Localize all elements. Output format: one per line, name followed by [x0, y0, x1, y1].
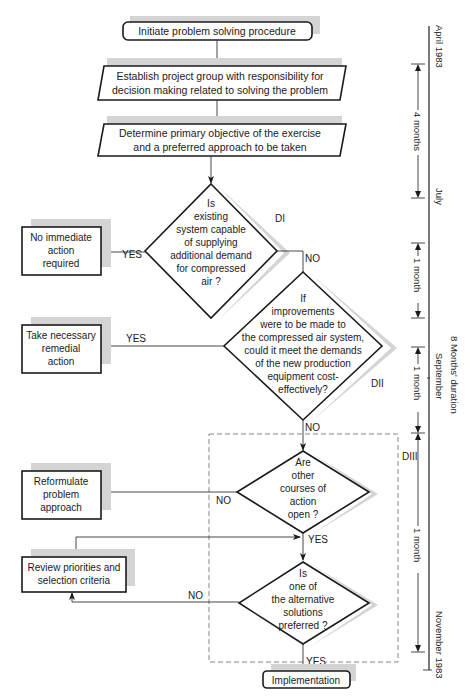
svg-text:Are: Are: [295, 457, 311, 468]
svg-text:If: If: [300, 293, 306, 304]
svg-text:required: required: [43, 258, 80, 269]
svg-text:one of: one of: [289, 581, 317, 592]
no-label-di: NO: [305, 253, 320, 264]
svg-text:No immediate: No immediate: [30, 232, 92, 243]
date-november-1983: November 1983: [434, 611, 445, 679]
svg-text:action: action: [290, 496, 317, 507]
svg-text:system capable: system capable: [176, 224, 246, 235]
svg-text:problem: problem: [43, 489, 79, 500]
svg-text:other: other: [292, 470, 315, 481]
svg-text:for compressed: for compressed: [177, 263, 246, 274]
svg-text:Is: Is: [299, 568, 307, 579]
svg-text:Is: Is: [207, 198, 215, 209]
date-september: September: [434, 353, 445, 399]
svg-text:Review priorities and: Review priorities and: [28, 562, 121, 573]
interval-4-months: 4 months: [412, 112, 423, 151]
svg-text:the alternative: the alternative: [272, 594, 335, 605]
yes-label-di: YES: [122, 249, 142, 260]
yes-label-diii: YES: [308, 534, 328, 545]
svg-text:action: action: [48, 356, 75, 367]
date-july: July: [434, 188, 445, 205]
svg-text:preferred ?: preferred ?: [279, 620, 328, 631]
svg-text:air ?: air ?: [201, 276, 221, 287]
step-establish-project-group: Establish project group with responsibil…: [98, 58, 346, 100]
svg-text:action: action: [48, 245, 75, 256]
svg-text:were to be made to: were to be made to: [259, 319, 346, 330]
step2-line1: Determine primary objective of the exerc…: [119, 127, 321, 139]
decision-dii: If improvements were to be made to the c…: [224, 272, 397, 422]
end-terminal-implementation: Implementation: [263, 664, 356, 688]
outcome-reformulate-approach: Reformulate problem approach: [22, 463, 111, 519]
svg-text:effectively?: effectively?: [278, 384, 328, 395]
step2-line2: and a preferred approach to be taken: [133, 141, 307, 153]
connector-no-di: [277, 251, 303, 272]
flowchart-diagram: Initiate problem solving procedure Estab…: [0, 0, 475, 700]
decision-diii: Are other courses of action open ?: [237, 451, 378, 535]
svg-text:of the new production: of the new production: [255, 358, 351, 369]
arrow-no-decision4: [72, 593, 239, 602]
outcome-remedial-action: Take necessary remedial action: [22, 317, 111, 373]
no-label-diii: NO: [216, 495, 231, 506]
interval-1-month-b: 1 month: [412, 366, 423, 400]
step-determine-objective: Determine primary objective of the exerc…: [98, 116, 346, 156]
svg-text:could it meet the demands: could it meet the demands: [244, 345, 361, 356]
decision-id-di: DI: [275, 213, 285, 224]
svg-text:solutions: solutions: [283, 607, 322, 618]
interval-1-month-c: 1 month: [412, 528, 423, 562]
outcome-no-immediate-action: No immediate action required: [22, 219, 111, 275]
no-label-dii: NO: [305, 422, 320, 433]
svg-text:equipment cost-: equipment cost-: [267, 371, 338, 382]
svg-text:Take necessary: Take necessary: [26, 330, 95, 341]
decision-id-diii: DIII: [402, 451, 418, 462]
timeline: 4 months 1 month 1 month 1 month April 1…: [411, 25, 460, 679]
decision-di: Is existing system capable of supplying …: [145, 184, 290, 320]
svg-text:open ?: open ?: [288, 509, 319, 520]
start-terminal: Initiate problem solving procedure: [123, 16, 320, 40]
no-label-decision4: NO: [188, 590, 203, 601]
yes-label-dii: YES: [126, 333, 146, 344]
step1-line2: decision making related to solving the p…: [112, 84, 328, 96]
start-label: Initiate problem solving procedure: [138, 25, 296, 37]
svg-text:existing: existing: [194, 211, 228, 222]
svg-text:additional demand: additional demand: [170, 250, 252, 261]
decision-id-dii: DII: [371, 378, 384, 389]
total-duration: 8 Months' duration: [449, 336, 460, 414]
svg-text:remedial: remedial: [42, 343, 80, 354]
svg-text:approach: approach: [40, 502, 82, 513]
outcome-review-priorities: Review priorities and selection criteria: [22, 549, 135, 592]
svg-text:the compressed air system,: the compressed air system,: [242, 332, 364, 343]
svg-text:courses of: courses of: [280, 483, 326, 494]
svg-text:of supplying: of supplying: [184, 237, 237, 248]
date-april-1983: April 1983: [434, 25, 445, 68]
svg-text:Implementation: Implementation: [272, 675, 340, 686]
svg-text:Reformulate: Reformulate: [34, 476, 89, 487]
svg-text:selection criteria: selection criteria: [38, 575, 111, 586]
svg-text:improvements: improvements: [272, 306, 335, 317]
step1-line1: Establish project group with responsibil…: [116, 70, 324, 82]
decision-alternative-preferred: Is one of the alternative solutions pref…: [239, 562, 378, 646]
interval-1-month-a: 1 month: [412, 258, 423, 292]
